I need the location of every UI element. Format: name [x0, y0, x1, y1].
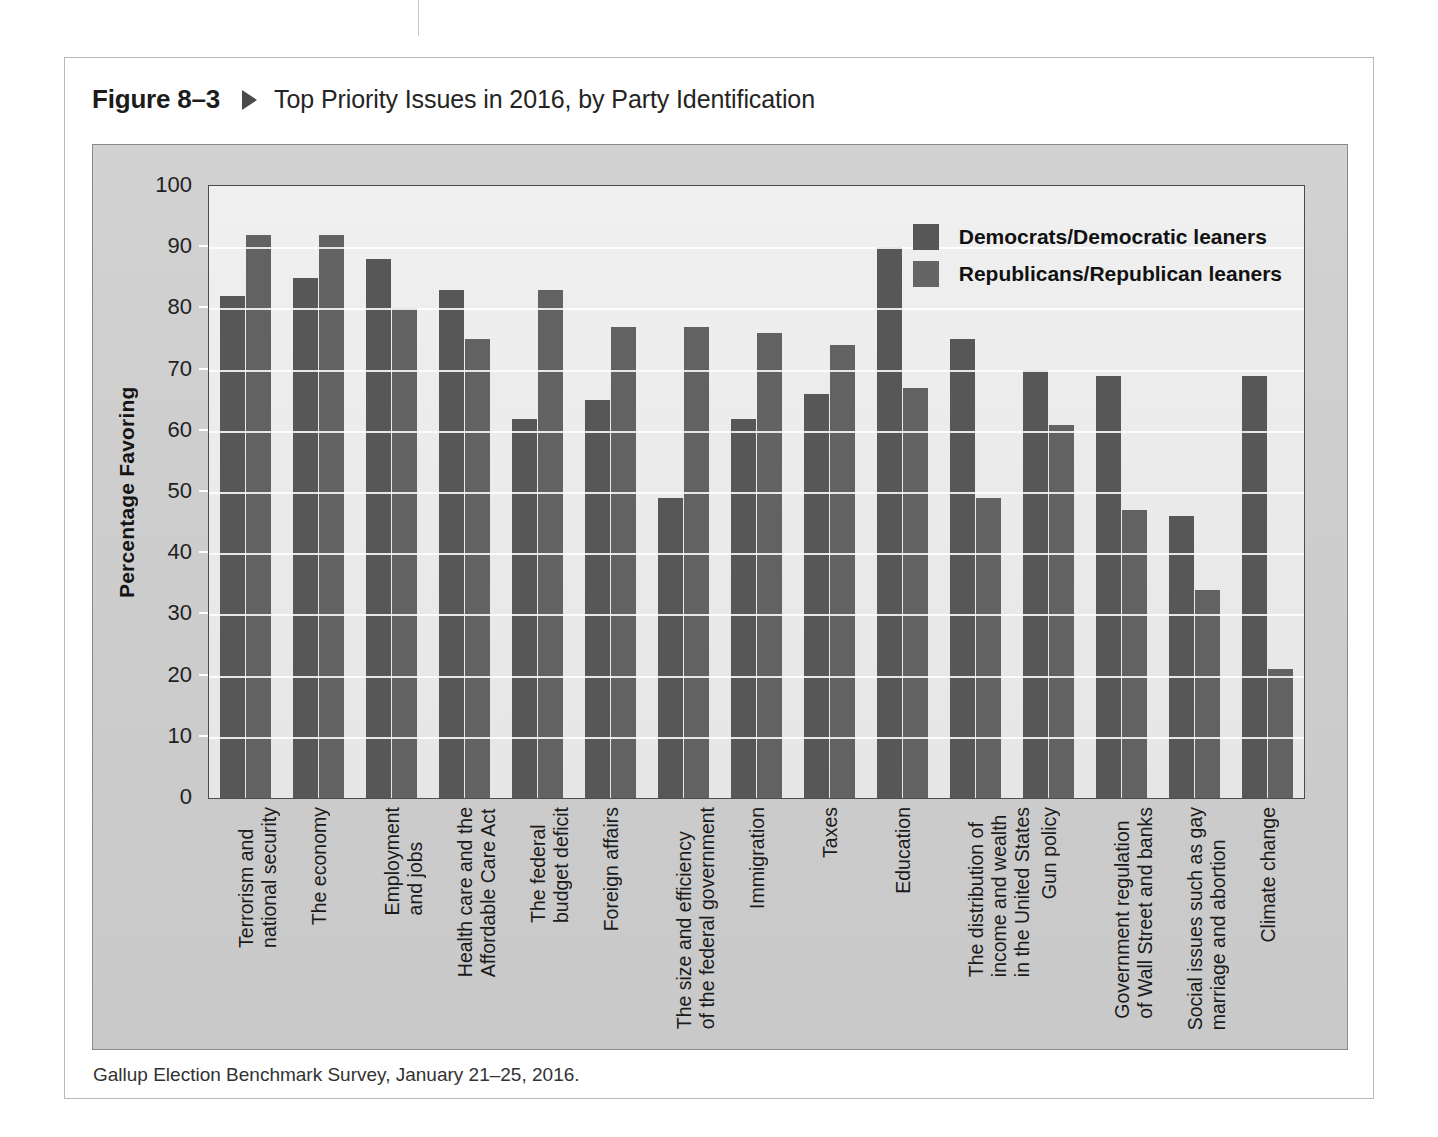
plot-area: Democrats/Democratic leaners Republicans… — [208, 185, 1305, 799]
bar — [950, 339, 975, 798]
bar — [731, 419, 756, 798]
bar — [1096, 376, 1121, 798]
y-tick-label: 100 — [155, 172, 192, 198]
bar — [1122, 510, 1147, 798]
bar — [1169, 516, 1194, 798]
x-axis-labels: Terrorism and national securityThe econo… — [208, 801, 1305, 1041]
x-axis-label: Gun policy — [1038, 807, 1061, 899]
x-axis-label: Foreign affairs — [600, 807, 623, 931]
y-tick-mark — [199, 674, 208, 676]
bar — [1242, 376, 1267, 798]
x-axis-label: Climate change — [1257, 807, 1280, 943]
y-tick-label: 10 — [168, 723, 192, 749]
bar — [319, 235, 344, 798]
bar — [465, 339, 490, 798]
bar — [611, 327, 636, 798]
y-tick-label: 50 — [168, 478, 192, 504]
x-axis-label: Health care and the Affordable Care Act — [454, 807, 500, 977]
x-axis-label: The distribution of income and wealth in… — [965, 807, 1034, 977]
y-tick-label: 70 — [168, 356, 192, 382]
bar — [658, 498, 683, 798]
bar — [439, 290, 464, 798]
bar — [538, 290, 563, 798]
x-axis-label: The size and efficiency of the federal g… — [673, 807, 719, 1029]
y-tick-label: 90 — [168, 233, 192, 259]
x-axis-label: The federal budget deficit — [527, 807, 573, 923]
bar — [1023, 370, 1048, 798]
bar — [366, 259, 391, 798]
bar — [220, 296, 245, 798]
bar — [1195, 590, 1220, 798]
y-tick-label: 40 — [168, 539, 192, 565]
y-tick-label: 20 — [168, 662, 192, 688]
y-axis: 0102030405060708090100 — [93, 185, 208, 799]
bar — [512, 419, 537, 798]
legend-item-democrats: Democrats/Democratic leaners — [913, 224, 1282, 250]
y-tick-mark — [199, 245, 208, 247]
y-tick-mark — [199, 612, 208, 614]
x-axis-label: Terrorism and national security — [235, 807, 281, 948]
legend-label-democrats: Democrats/Democratic leaners — [959, 225, 1267, 249]
y-tick-mark — [199, 490, 208, 492]
bar — [684, 327, 709, 798]
figure-header: Figure 8–3 Top Priority Issues in 2016, … — [92, 84, 815, 115]
y-tick-mark — [199, 306, 208, 308]
bar — [293, 278, 318, 798]
y-tick-mark — [199, 551, 208, 553]
x-axis-label: Employment and jobs — [381, 807, 427, 915]
figure-number: Figure 8–3 — [92, 84, 220, 115]
y-tick-mark — [199, 429, 208, 431]
page-gutter-rule — [418, 0, 419, 36]
chart-panel: Percentage Favoring 01020304050607080901… — [92, 144, 1348, 1050]
bar — [1049, 425, 1074, 798]
x-axis-label: The economy — [308, 807, 331, 925]
bar — [246, 235, 271, 798]
bar — [1268, 669, 1293, 798]
y-tick-mark — [199, 735, 208, 737]
x-axis-label: Government regulation of Wall Street and… — [1111, 807, 1157, 1019]
y-tick-label: 30 — [168, 600, 192, 626]
y-tick-mark — [199, 368, 208, 370]
legend-item-republicans: Republicans/Republican leaners — [913, 261, 1282, 287]
bar — [585, 400, 610, 798]
legend-swatch-republicans — [913, 261, 939, 287]
x-axis-label: Immigration — [746, 807, 769, 909]
bar — [903, 388, 928, 798]
triangle-right-icon — [242, 90, 257, 110]
legend-swatch-democrats — [913, 224, 939, 250]
figure-container: Figure 8–3 Top Priority Issues in 2016, … — [64, 57, 1374, 1099]
y-tick-label: 80 — [168, 294, 192, 320]
bar — [877, 247, 902, 798]
source-note: Gallup Election Benchmark Survey, Januar… — [93, 1064, 580, 1086]
bar — [830, 345, 855, 798]
bar — [804, 394, 829, 798]
x-axis-label: Education — [892, 807, 915, 894]
figure-title: Top Priority Issues in 2016, by Party Id… — [274, 85, 815, 114]
x-axis-label: Social issues such as gay marriage and a… — [1184, 807, 1230, 1030]
y-tick-label: 60 — [168, 417, 192, 443]
bar — [757, 333, 782, 798]
bar — [976, 498, 1001, 798]
bar — [392, 308, 417, 798]
x-axis-label: Taxes — [819, 807, 842, 858]
legend-label-republicans: Republicans/Republican leaners — [959, 262, 1282, 286]
legend: Democrats/Democratic leaners Republicans… — [913, 224, 1282, 298]
y-tick-label: 0 — [180, 784, 192, 810]
